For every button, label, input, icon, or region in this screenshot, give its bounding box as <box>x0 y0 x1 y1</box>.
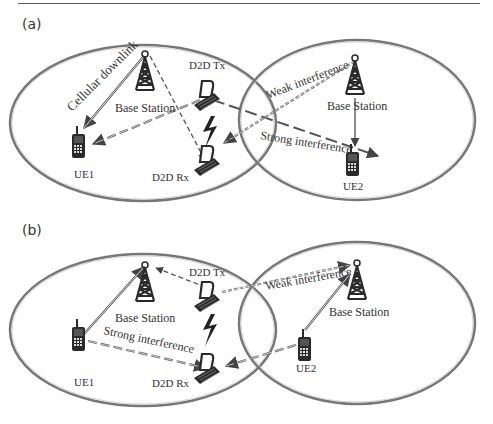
d2d-tx-phone-icon <box>194 282 220 312</box>
ue2-label: UE2 <box>296 362 316 374</box>
base-station-icon <box>346 55 364 94</box>
d2d-tx-label: D2D Tx <box>189 266 226 278</box>
d2d-rx-label: D2D Rx <box>152 171 189 183</box>
ue1-phone-icon <box>72 319 85 351</box>
ue1-phone-icon <box>72 126 85 158</box>
bs2-label: Base Station <box>327 99 387 113</box>
ue1-label: UE1 <box>74 376 94 388</box>
panel-b: Base Station Base Station UE1 UE2 D2D Tx… <box>10 242 475 406</box>
d2d-rx-label: D2D Rx <box>152 377 189 389</box>
bs2-label: Base Station <box>329 305 389 319</box>
bs1-label: Base Station <box>115 311 175 325</box>
panel-a: Base Station Base Station UE1 UE2 D2D Tx… <box>10 37 475 201</box>
bs1-label: Base Station <box>115 101 175 115</box>
d2d-link-bolt-icon <box>203 314 217 346</box>
d2d-rx-phone-icon <box>194 146 220 176</box>
strong-interference-label: Strong interference <box>260 128 353 156</box>
base-station-icon <box>348 260 366 299</box>
d2d-link-bolt-icon <box>203 116 217 148</box>
d2d-tx-label: D2D Tx <box>189 59 226 71</box>
ue2-phone-icon <box>298 329 311 361</box>
base-station-icon <box>136 262 154 301</box>
base-station-icon <box>136 51 154 90</box>
strong-interference-label: Strong interference <box>102 323 195 356</box>
d2d-rx-phone-icon <box>194 354 220 384</box>
d2d-tx-phone-icon <box>194 81 220 111</box>
weak-interference-label: Weak interference <box>264 57 351 101</box>
d2d-interference-diagram: Base Station Base Station UE1 UE2 D2D Tx… <box>0 0 493 424</box>
ue2-label: UE2 <box>343 180 363 192</box>
ue1-label: UE1 <box>74 168 94 180</box>
